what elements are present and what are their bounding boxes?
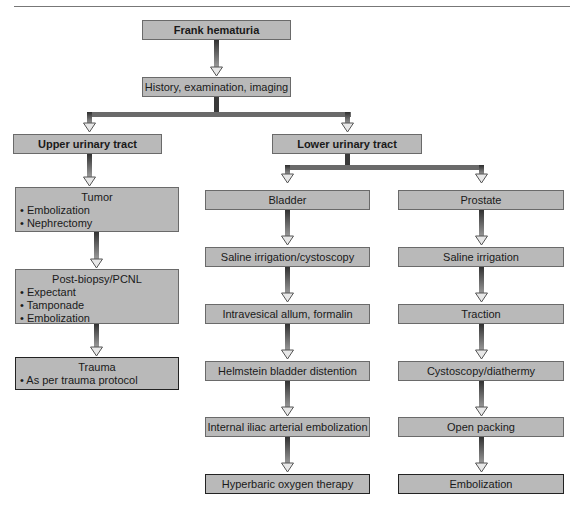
post-biopsy-node: Post-biopsy/PCNL Expectant Tamponade Emb… — [15, 269, 179, 324]
prostate-step: Cystoscopy/diathermy — [398, 361, 564, 381]
lower-tract-node: Lower urinary tract — [272, 134, 422, 154]
bladder-step: Saline irrigation/cystoscopy — [205, 247, 370, 267]
tumor-item: Nephrectomy — [20, 217, 178, 230]
post-biopsy-item: Tamponade — [20, 299, 178, 312]
history-exam-node: History, examination, imaging — [142, 77, 291, 97]
prostate-step: Open packing — [398, 417, 564, 437]
bladder-step: Intravesical allum, formalin — [205, 304, 370, 324]
root-node: Frank hematuria — [142, 20, 291, 40]
tumor-title: Tumor — [16, 191, 178, 204]
bladder-step: Internal iliac arterial embolization — [205, 417, 370, 437]
prostate-step: Saline irrigation — [398, 247, 564, 267]
bladder-step: Hyperbaric oxygen therapy — [205, 474, 370, 494]
prostate-step: Embolization — [398, 474, 564, 494]
bladder-node: Bladder — [205, 190, 370, 210]
trauma-node: Trauma As per trauma protocol — [15, 357, 179, 390]
upper-tract-node: Upper urinary tract — [13, 134, 162, 154]
post-biopsy-title: Post-biopsy/PCNL — [16, 273, 178, 286]
trauma-item: As per trauma protocol — [20, 374, 178, 387]
prostate-step: Traction — [398, 304, 564, 324]
tumor-item: Embolization — [20, 204, 178, 217]
prostate-node: Prostate — [398, 190, 564, 210]
bladder-step: Helmstein bladder distention — [205, 361, 370, 381]
post-biopsy-item: Expectant — [20, 286, 178, 299]
trauma-title: Trauma — [16, 361, 178, 374]
tumor-node: Tumor Embolization Nephrectomy — [15, 187, 179, 232]
post-biopsy-item: Embolization — [20, 312, 178, 325]
